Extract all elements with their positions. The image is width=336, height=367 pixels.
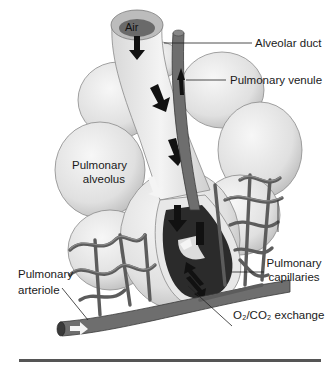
label-pulmonary-capillaries: Pulmonary capillaries <box>264 256 324 284</box>
label-alveolar-duct: Alveolar duct <box>255 36 321 50</box>
label-pulmonary-capillaries-line2: capillaries <box>264 270 324 284</box>
label-pulmonary-arteriole-line1: Pulmonary <box>18 266 73 282</box>
label-pulmonary-capillaries-line1: Pulmonary <box>264 256 324 270</box>
label-pulmonary-alveolus: Pulmonary alveolus <box>72 158 125 186</box>
label-pulmonary-arteriole-line2: arteriole <box>18 282 73 298</box>
footer-rule <box>19 359 321 362</box>
label-pulmonary-alveolus-line2: alveolus <box>72 172 125 186</box>
label-pulmonary-arteriole: Pulmonary arteriole <box>18 266 73 298</box>
label-pulmonary-venule: Pulmonary venule <box>230 73 322 87</box>
label-air: Air <box>125 20 138 34</box>
label-gas-exchange: O₂/CO₂ exchange <box>233 308 324 322</box>
label-pulmonary-alveolus-line1: Pulmonary <box>72 158 125 172</box>
